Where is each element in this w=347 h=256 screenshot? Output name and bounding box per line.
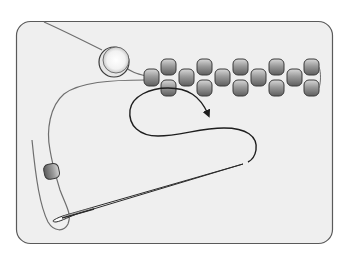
beading-diagram: Thread path for adding a bead in a two-d…	[0, 0, 347, 256]
stop-bead	[43, 162, 61, 180]
large-bead	[99, 47, 129, 77]
panel	[17, 22, 333, 244]
